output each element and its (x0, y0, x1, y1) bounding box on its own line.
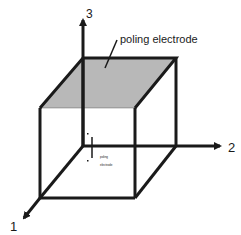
inner-label-line1: poling (100, 155, 108, 159)
marker-dot-bottom (87, 160, 89, 162)
cube-edge-bottom-left (40, 146, 83, 198)
electrode-label: poling electrode (120, 33, 198, 45)
axis-1-label: 1 (10, 219, 17, 234)
marker-dot-top (87, 133, 89, 135)
axis-3-label: 3 (86, 7, 93, 21)
cube-edge-bottom-right (135, 146, 176, 198)
axis-2-label: 2 (228, 140, 235, 155)
diagram-canvas: 3 2 1 poling electrode poling electrode (0, 0, 241, 235)
inner-label-line2: electrode (100, 163, 113, 167)
axis-1-arrow (24, 198, 40, 218)
